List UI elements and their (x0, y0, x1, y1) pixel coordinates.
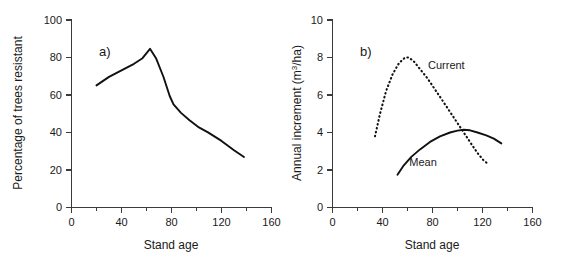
panel-b-xtick-0: 0 (329, 216, 335, 228)
chart-panel-b: 0 2 4 6 8 10 0 40 80 (281, 0, 562, 257)
panel-b-y-ticks (327, 20, 333, 208)
panel-a-ytick-40: 40 (50, 126, 62, 138)
panel-a-x-ticks-major (72, 208, 272, 214)
panel-a-xtick-160: 160 (262, 216, 280, 228)
annotation-current: Current (428, 59, 465, 71)
panel-a-xtick-120: 120 (212, 216, 230, 228)
panel-b-xtick-80: 80 (426, 216, 438, 228)
panel-a-ytick-20: 20 (50, 164, 62, 176)
panel-b-x-axis-title: Stand age (405, 238, 460, 252)
panel-a-ytick-0: 0 (56, 201, 62, 213)
chart-panel-a: 0 20 40 60 80 100 0 40 (0, 0, 281, 257)
annotation-mean: Mean (409, 156, 437, 168)
panel-b-y-axis-title-prefix: Annual increment (m (290, 70, 304, 181)
panel-a-xtick-40: 40 (115, 216, 127, 228)
panel-a-ytick-100: 100 (44, 14, 62, 26)
panel-b-x-ticks-major (333, 208, 533, 214)
panel-b-xtick-160: 160 (523, 216, 541, 228)
panel-b-y-axis-title-suffix: /ha) (290, 45, 304, 66)
panel-b-series-current (375, 58, 489, 165)
panel-a-tag: a) (99, 44, 111, 59)
figure-container: 0 20 40 60 80 100 0 40 (0, 0, 562, 257)
panel-b-tag: b) (360, 44, 372, 59)
panel-a-plot: 0 20 40 60 80 100 0 40 (0, 0, 281, 257)
panel-a-y-axis-title: Percentage of trees resistant (11, 36, 25, 190)
panel-b-ytick-8: 8 (317, 51, 323, 63)
panel-a-xtick-80: 80 (165, 216, 177, 228)
panel-a-x-axis-title: Stand age (144, 238, 199, 252)
panel-b-xtick-40: 40 (376, 216, 388, 228)
panel-b-ytick-6: 6 (317, 89, 323, 101)
panel-a-y-ticks (66, 20, 72, 208)
panel-a-ytick-80: 80 (50, 51, 62, 63)
panel-b-plot: 0 2 4 6 8 10 0 40 80 (281, 0, 562, 257)
panel-b-y-axis-title: Annual increment (m3/ha) (290, 45, 304, 181)
panel-a-series-resistance (97, 49, 245, 157)
panel-b-ytick-0: 0 (317, 201, 323, 213)
panel-b-xtick-120: 120 (473, 216, 491, 228)
panel-b-ytick-10: 10 (311, 14, 323, 26)
panel-a-xtick-0: 0 (68, 216, 74, 228)
panel-b-ytick-2: 2 (317, 164, 323, 176)
panel-b-ytick-4: 4 (317, 126, 323, 138)
panel-a-ytick-60: 60 (50, 89, 62, 101)
